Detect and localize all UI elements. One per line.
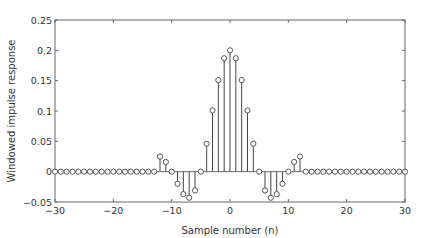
data-point [134,169,139,174]
x-tick-label: −20 [103,205,123,216]
data-point [52,169,57,174]
x-axis-label: Sample number (n) [181,225,278,236]
data-point [257,169,262,174]
data-point [93,169,98,174]
x-tick-label: 30 [399,205,411,216]
data-point [140,169,145,174]
data-point [58,169,63,174]
data-point [280,181,285,186]
data-point [373,169,378,174]
data-point [367,169,372,174]
data-point [268,195,273,200]
data-point [251,141,256,146]
data-point [87,169,92,174]
data-point [64,169,69,174]
data-point [397,169,402,174]
data-point [204,141,209,146]
x-tick-label: 20 [341,205,353,216]
data-point [245,108,250,113]
x-tick-label: −10 [162,205,182,216]
data-point [274,192,279,197]
y-axis-label: Windowed impulse response [6,39,17,182]
data-point [82,169,87,174]
data-point [169,169,174,174]
data-point [227,48,232,53]
data-stems [52,48,407,201]
data-point [198,169,203,174]
y-tick-label: 0.1 [37,106,52,117]
data-point [128,169,133,174]
stem-chart: −30−20−100102030−0.0500.050.10.150.20.25… [0,0,426,238]
data-point [222,56,227,61]
data-point [379,169,384,174]
axis-ticks: −30−20−100102030−0.0500.050.10.150.20.25 [23,15,411,217]
y-tick-label: 0.15 [31,75,52,86]
data-point [356,169,361,174]
data-point [391,169,396,174]
data-point [321,169,326,174]
data-point [117,169,122,174]
data-point [175,181,180,186]
data-point [327,169,332,174]
y-tick-label: 0.05 [31,136,52,147]
data-point [192,188,197,193]
data-point [344,169,349,174]
y-tick-label: 0 [46,166,52,177]
data-point [70,169,75,174]
data-point [297,154,302,159]
data-point [303,169,308,174]
data-point [181,192,186,197]
data-point [309,169,314,174]
data-point [362,169,367,174]
data-point [338,169,343,174]
data-point [216,77,221,82]
data-point [315,169,320,174]
y-tick-label: 0.25 [31,15,52,26]
data-point [146,169,151,174]
data-point [402,169,407,174]
data-point [332,169,337,174]
data-point [286,169,291,174]
data-point [239,77,244,82]
data-point [233,56,238,61]
data-point [210,108,215,113]
data-point [385,169,390,174]
data-point [292,159,297,164]
x-tick-label: 10 [282,205,294,216]
data-point [105,169,110,174]
y-tick-label: −0.05 [23,197,52,208]
y-tick-label: 0.2 [37,45,52,56]
data-point [187,195,192,200]
data-point [262,188,267,193]
x-tick-label: 0 [227,205,233,216]
data-point [76,169,81,174]
data-point [111,169,116,174]
data-point [350,169,355,174]
data-point [152,169,157,174]
data-point [157,154,162,159]
data-point [99,169,104,174]
data-point [163,159,168,164]
data-point [122,169,127,174]
